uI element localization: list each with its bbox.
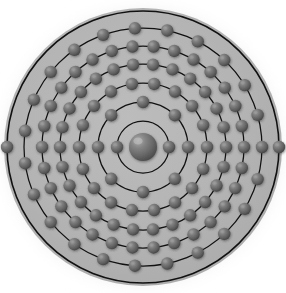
electron-shell-3-15 bbox=[148, 78, 160, 90]
electron-highlight bbox=[47, 102, 51, 105]
electron-highlight bbox=[212, 182, 216, 185]
electron-shell-2-5 bbox=[92, 141, 104, 153]
electron-highlight bbox=[206, 218, 210, 221]
electron-shell-4-14 bbox=[54, 141, 66, 153]
electron-shell-5-1 bbox=[238, 141, 250, 153]
electron-highlight bbox=[3, 143, 7, 146]
electron-highlight bbox=[107, 111, 111, 114]
electron-highlight bbox=[57, 84, 61, 87]
electron-shell-7-2 bbox=[1, 141, 13, 153]
electron-shell-4-2 bbox=[217, 161, 229, 173]
electron-shell-4-21 bbox=[147, 58, 159, 70]
electron-highlight bbox=[47, 184, 51, 187]
electron-shell-5-3 bbox=[229, 182, 241, 194]
electron-shell-4-5 bbox=[184, 209, 196, 221]
electron-highlight bbox=[79, 121, 83, 124]
electron-highlight bbox=[149, 61, 153, 64]
electron-shell-3-13 bbox=[105, 85, 117, 97]
electron-highlight bbox=[77, 198, 81, 201]
electron-highlight bbox=[139, 188, 143, 191]
electron-shell-5-22 bbox=[106, 45, 118, 57]
electron-shell-4-16 bbox=[63, 102, 75, 114]
electron-highlight bbox=[199, 165, 203, 168]
electron-shell-5-15 bbox=[38, 162, 50, 174]
electron-shell-5-30 bbox=[236, 120, 248, 132]
electron-shell-6-7 bbox=[129, 260, 141, 272]
electron-highlight bbox=[186, 75, 190, 78]
electron-shell-4-9 bbox=[107, 218, 119, 230]
electron-shell-3-18 bbox=[197, 119, 209, 131]
electron-highlight bbox=[40, 122, 44, 125]
electron-shell-6-4 bbox=[218, 228, 230, 240]
electron-shell-6-2 bbox=[251, 173, 263, 185]
electron-highlight bbox=[99, 255, 103, 258]
electron-shell-4-26 bbox=[217, 121, 229, 133]
electron-highlight bbox=[206, 68, 210, 71]
electron-shell-6-3 bbox=[238, 203, 250, 215]
electron-shell-4-15 bbox=[56, 121, 68, 133]
electron-shell-4-12 bbox=[63, 179, 75, 191]
electron-highlight bbox=[128, 80, 132, 83]
electron-highlight bbox=[201, 88, 205, 91]
electron-shell-5-4 bbox=[219, 200, 231, 212]
electron-shell-6-5 bbox=[192, 246, 204, 258]
electron-shell-4-11 bbox=[75, 196, 87, 208]
electron-highlight bbox=[139, 98, 143, 101]
electron-shell-3-8 bbox=[88, 182, 100, 194]
electron-shell-5-20 bbox=[69, 66, 81, 78]
electron-highlight bbox=[21, 127, 25, 130]
electron-highlight bbox=[221, 84, 225, 87]
electron-shell-3-7 bbox=[105, 196, 117, 208]
electron-highlight bbox=[109, 65, 113, 68]
electron-highlight bbox=[165, 143, 169, 146]
electron-highlight bbox=[212, 104, 216, 107]
electron-highlight bbox=[38, 143, 42, 146]
electron-shell-6-20 bbox=[192, 35, 204, 47]
electron-shell-6-8 bbox=[97, 253, 109, 265]
electron-highlight bbox=[79, 165, 83, 168]
electron-shell-2-8 bbox=[169, 109, 181, 121]
electron-shell-6-21 bbox=[218, 54, 230, 66]
electron-highlight bbox=[240, 143, 244, 146]
electron-shell-5-12 bbox=[69, 216, 81, 228]
electron-shell-4-22 bbox=[166, 63, 178, 75]
electron-highlight bbox=[129, 61, 133, 64]
electron-shell-3-14 bbox=[126, 78, 138, 90]
electron-highlight bbox=[57, 202, 61, 205]
electron-highlight bbox=[253, 175, 257, 178]
electron-shell-4-6 bbox=[166, 218, 178, 230]
electron-highlight bbox=[71, 218, 75, 221]
electron-highlight bbox=[131, 24, 135, 27]
electron-highlight bbox=[171, 88, 175, 91]
electron-highlight bbox=[128, 243, 132, 246]
electron-shell-6-12 bbox=[19, 157, 31, 169]
electron-highlight bbox=[30, 96, 34, 99]
electron-shell-4-25 bbox=[210, 102, 222, 114]
electron-shell-5-27 bbox=[204, 66, 216, 78]
electron-highlight bbox=[189, 231, 193, 234]
electron-shell-3-2 bbox=[197, 163, 209, 175]
electron-highlight bbox=[77, 88, 81, 91]
electron-highlight bbox=[170, 239, 174, 242]
electron-shell-2-3 bbox=[137, 186, 149, 198]
electron-shell-6-19 bbox=[161, 24, 173, 36]
electron-shell-4-10 bbox=[90, 209, 102, 221]
electron-highlight bbox=[47, 218, 51, 221]
electron-highlight bbox=[170, 47, 174, 50]
electron-highlight bbox=[168, 221, 172, 224]
electron-highlight bbox=[30, 190, 34, 193]
electron-shell-4-3 bbox=[210, 179, 222, 191]
electron-highlight bbox=[253, 111, 257, 114]
electron-highlight bbox=[275, 143, 279, 146]
electron-shell-6-9 bbox=[68, 238, 80, 250]
electron-shell-4-7 bbox=[147, 223, 159, 235]
electron-highlight bbox=[92, 75, 96, 78]
electron-highlight bbox=[58, 123, 62, 126]
electron-highlight bbox=[65, 182, 69, 185]
electron-shell-3-12 bbox=[88, 100, 100, 112]
electron-shell-5-8 bbox=[147, 241, 159, 253]
electron-shell-5-28 bbox=[219, 81, 231, 93]
electron-shell-3-17 bbox=[186, 100, 198, 112]
electron-shell-3-11 bbox=[77, 119, 89, 131]
electron-highlight bbox=[238, 122, 242, 125]
